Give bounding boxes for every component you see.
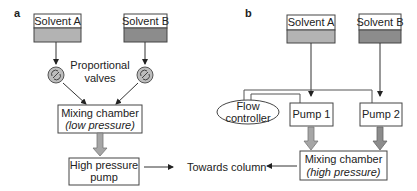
- flow-controller-sublabel: controller: [225, 112, 271, 124]
- mixing-chamber-b-sublabel: (high pressure): [307, 166, 381, 178]
- mixing-chamber-a-label: Mixing chamber: [61, 107, 139, 119]
- solvent-b-label-a: Solvent B: [122, 15, 169, 27]
- pump-2: Pump 2: [360, 103, 402, 126]
- mixing-chamber-low-pressure: Mixing chamber (low pressure): [58, 105, 142, 133]
- pump-1-label: Pump 1: [293, 108, 331, 120]
- proportional-valve-b-icon: [137, 67, 153, 83]
- proportional-valve-a-icon: [48, 67, 64, 83]
- pump-1: Pump 1: [290, 103, 333, 126]
- solvent-b-reservoir-a: Solvent B: [122, 14, 169, 42]
- flow-arrow-pump-1: [304, 127, 318, 150]
- proportional-valves-label-1: Proportional: [70, 59, 129, 71]
- solvent-a-label-b: Solvent A: [288, 16, 335, 28]
- high-pressure-pump: High pressure pump: [69, 158, 139, 185]
- solvent-a-label-a: Solvent A: [34, 15, 81, 27]
- proportional-valves-label-2: valves: [84, 72, 116, 84]
- towards-column-label: Towards column: [187, 161, 266, 173]
- solvent-b-label-b: Solvent B: [356, 16, 403, 28]
- flow-arrow-pump-2: [373, 127, 387, 150]
- flow-controller: Flow controller: [217, 100, 279, 124]
- solvent-b-reservoir-b: Solvent B: [356, 14, 403, 43]
- pump-2-label: Pump 2: [362, 108, 400, 120]
- mixing-chamber-b-label: Mixing chamber: [305, 153, 383, 165]
- mixing-chamber-a-sublabel: (low pressure): [65, 119, 135, 131]
- panel-a-label: a: [14, 7, 21, 19]
- high-pressure-pump-sublabel: pump: [90, 171, 118, 183]
- high-pressure-pump-label: High pressure: [70, 159, 138, 171]
- solvent-a-reservoir-a: Solvent A: [34, 14, 81, 42]
- panel-b-label: b: [245, 7, 252, 19]
- mixing-chamber-high-pressure: Mixing chamber (high pressure): [300, 151, 387, 180]
- hplc-solvent-delivery-diagram: a Solvent A Solvent B Proportional valve…: [0, 0, 417, 191]
- solvent-a-reservoir-b: Solvent A: [287, 15, 335, 43]
- flow-arrow-a: [93, 133, 107, 156]
- flow-controller-label: Flow: [236, 100, 259, 112]
